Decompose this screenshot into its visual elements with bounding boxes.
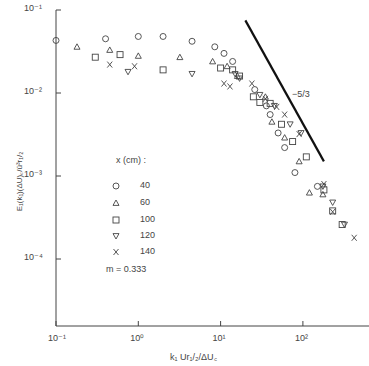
y-axis-label: E₁(k₁)(ΔU)꜀/ū³r₁/₂ <box>13 112 24 252</box>
x-tick-label: 10² <box>295 333 308 343</box>
y-tick-label: 10⁻² <box>24 86 42 96</box>
x-tick-label: 10⁻¹ <box>48 333 66 343</box>
x-tick-label: 10⁰ <box>130 333 144 343</box>
legend-title: x (cm) : <box>116 155 146 165</box>
x-axis-label: k₁ Ur₁/₂/ΔU꜀ <box>170 350 217 363</box>
slope-label: −5/3 <box>292 89 310 99</box>
y-tick-label: 10⁻¹ <box>24 3 42 13</box>
legend-markers <box>113 183 119 255</box>
spectrum-chart <box>0 0 369 366</box>
axes <box>56 10 369 326</box>
legend-note: m = 0.333 <box>106 264 146 274</box>
x-tick-label: 10¹ <box>213 333 226 343</box>
y-tick-label: 10⁻⁴ <box>24 252 43 262</box>
y-tick-label: 10⁻³ <box>24 169 42 179</box>
